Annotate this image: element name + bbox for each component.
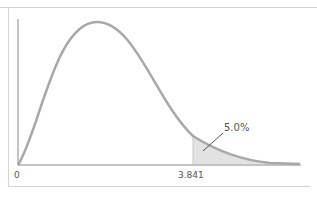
- density-curve: [18, 22, 300, 165]
- x-tick-origin: 0: [14, 170, 20, 180]
- x-tick-critical: 3.841: [178, 170, 204, 180]
- tail-percent-label: 5.0%: [224, 122, 249, 133]
- critical-region: [193, 136, 300, 165]
- chart-plot: [0, 0, 317, 199]
